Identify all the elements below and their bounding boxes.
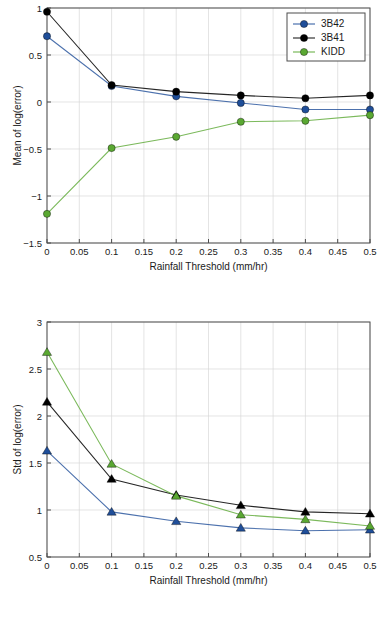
x-tick-label: 0.3	[234, 246, 247, 257]
data-point-kidd	[173, 133, 180, 140]
mean-log-error-plot: 00.050.10.150.20.250.30.350.40.450.5−1.5…	[0, 0, 380, 300]
data-point-3b41	[43, 8, 50, 15]
x-tick-label: 0.1	[105, 246, 118, 257]
x-tick-label: 0.45	[328, 246, 347, 257]
x-tick-label: 0	[44, 246, 49, 257]
figure-page: 00.050.10.150.20.250.30.350.40.450.5−1.5…	[0, 0, 380, 621]
y-axis-title: Std of log(error)	[12, 404, 23, 474]
y-tick-label: 1	[37, 505, 42, 516]
y-tick-label: 1.5	[29, 458, 42, 469]
legend-marker-kidd	[300, 48, 307, 55]
data-point-kidd	[237, 118, 244, 125]
x-tick-label: 0.15	[135, 246, 154, 257]
x-tick-label: 0.05	[70, 246, 89, 257]
x-tick-label: 0.1	[105, 560, 118, 571]
y-tick-label: −1	[31, 191, 42, 202]
std-log-error-plot: 00.050.10.150.20.250.30.350.40.450.50.51…	[0, 300, 380, 621]
y-tick-label: 0.5	[29, 552, 42, 563]
x-tick-label: 0.2	[170, 246, 183, 257]
y-tick-label: 2	[37, 411, 42, 422]
x-axis-title: Rainfall Threshold (mm/hr)	[149, 261, 267, 272]
data-point-kidd	[43, 210, 50, 217]
x-tick-label: 0.25	[199, 560, 218, 571]
x-tick-label: 0.05	[70, 560, 89, 571]
y-tick-label: 0.5	[29, 50, 42, 61]
legend-label-3b42: 3B42	[321, 18, 345, 29]
x-axis-title: Rainfall Threshold (mm/hr)	[149, 575, 267, 586]
legend-label-kidd: KIDD	[321, 46, 345, 57]
data-point-3b42	[43, 33, 50, 40]
data-point-3b41	[366, 92, 373, 99]
x-tick-label: 0.4	[299, 246, 312, 257]
data-point-kidd	[366, 112, 373, 119]
data-point-3b41	[108, 81, 115, 88]
data-point-3b41	[302, 95, 309, 102]
data-point-3b42	[237, 99, 244, 106]
y-tick-label: −0.5	[23, 144, 42, 155]
data-point-kidd	[302, 117, 309, 124]
data-point-3b41	[237, 92, 244, 99]
y-tick-label: −1.5	[23, 238, 42, 249]
x-tick-label: 0	[44, 560, 49, 571]
legend-marker-3b41	[300, 34, 307, 41]
data-point-kidd	[42, 348, 51, 356]
chart-mean-log-error: 00.050.10.150.20.250.30.350.40.450.5−1.5…	[0, 0, 380, 300]
data-point-3b41	[42, 398, 51, 406]
chart-legend: 3B423B41KIDD	[287, 13, 365, 61]
chart-std-log-error: 00.050.10.150.20.250.30.350.40.450.50.51…	[0, 300, 380, 621]
x-tick-label: 0.4	[299, 560, 312, 571]
x-tick-label: 0.15	[135, 560, 154, 571]
y-tick-label: 3	[37, 317, 42, 328]
x-tick-label: 0.45	[328, 560, 347, 571]
y-tick-label: 1	[37, 3, 42, 14]
data-point-3b42	[302, 106, 309, 113]
x-tick-label: 0.35	[264, 246, 283, 257]
x-tick-label: 0.5	[363, 560, 376, 571]
y-tick-label: 2.5	[29, 364, 42, 375]
legend-label-3b41: 3B41	[321, 32, 345, 43]
y-axis-title: Mean of log(error)	[12, 85, 23, 165]
y-tick-label: 0	[37, 97, 42, 108]
x-tick-label: 0.35	[264, 560, 283, 571]
x-tick-label: 0.2	[170, 560, 183, 571]
data-point-3b41	[173, 88, 180, 95]
data-point-kidd	[108, 144, 115, 151]
x-tick-label: 0.5	[363, 246, 376, 257]
x-tick-label: 0.3	[234, 560, 247, 571]
x-tick-label: 0.25	[199, 246, 218, 257]
data-point-3b42	[42, 446, 51, 454]
legend-marker-3b42	[300, 20, 307, 27]
data-point-kidd	[107, 460, 116, 468]
